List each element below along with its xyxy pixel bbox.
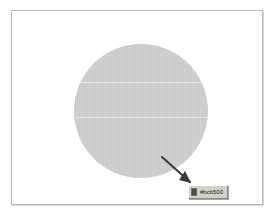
color-hex-value: #bcb500	[200, 188, 223, 196]
color-swatch-icon	[191, 188, 197, 196]
color-tooltip: #bcb500	[188, 185, 228, 199]
color-circle-shape[interactable]	[74, 44, 208, 178]
canvas-frame[interactable]: #bcb500	[11, 10, 263, 205]
screenshot-root: #bcb500	[0, 0, 277, 219]
